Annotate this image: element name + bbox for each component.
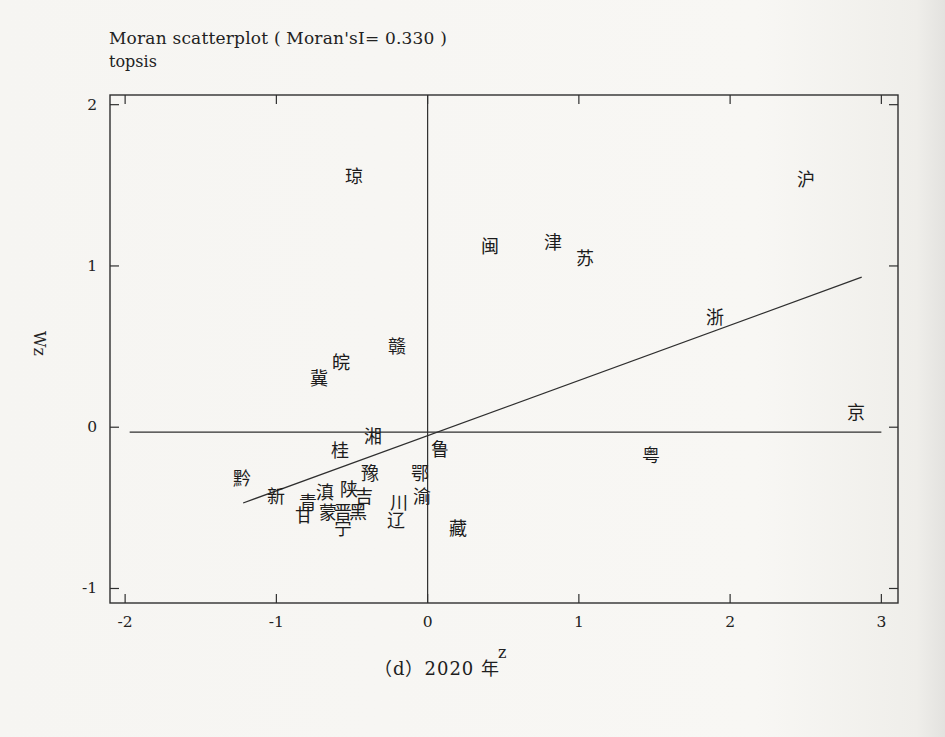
y-tick-label: 2 (87, 96, 97, 114)
province-point-anhui: 皖 (332, 354, 350, 372)
province-point-xinjiang: 新 (267, 488, 285, 506)
y-tick-label: -1 (82, 579, 97, 597)
y-tick-label: 0 (87, 418, 97, 436)
province-point-liaoning: 辽 (387, 512, 405, 530)
province-point-tianjin: 津 (544, 234, 562, 252)
x-tick-label: -2 (118, 613, 133, 631)
province-point-ningxia: 宁 (334, 520, 352, 538)
y-axis-label: Wz (30, 327, 49, 361)
figure-caption: （d）2020 年 (374, 654, 500, 680)
province-point-fujian: 闽 (481, 238, 499, 256)
x-tick-label: 2 (725, 613, 735, 631)
province-point-gansu: 甘 (295, 507, 313, 525)
y-tick-label: 1 (87, 257, 97, 275)
province-point-hubei: 鄂 (411, 465, 429, 483)
x-tick-label: -1 (269, 613, 284, 631)
province-point-hunan: 湘 (364, 428, 382, 446)
province-point-tibet: 藏 (449, 520, 467, 538)
province-point-hainan: 琼 (345, 168, 363, 186)
province-point-shandong: 鲁 (431, 441, 449, 459)
province-point-jiangsu: 苏 (576, 250, 594, 268)
x-tick-label: 3 (876, 613, 886, 631)
province-point-guangxi: 桂 (331, 442, 349, 460)
axes-box (110, 95, 898, 603)
x-tick-label: 0 (423, 613, 433, 631)
province-point-beijing: 京 (847, 404, 865, 422)
figure-title: Moran scatterplot ( Moran'sI= 0.330 ) (109, 28, 447, 48)
province-point-guizhou: 黔 (233, 470, 251, 488)
x-tick-label: 1 (574, 613, 584, 631)
province-point-zhejiang: 浙 (706, 309, 724, 327)
regression-line (243, 277, 862, 503)
province-point-chongqing: 渝 (413, 488, 431, 506)
province-point-hebei: 冀 (310, 370, 328, 388)
plot-canvas (0, 0, 945, 737)
province-point-henan: 豫 (361, 465, 379, 483)
province-point-guangdong: 粤 (642, 447, 660, 465)
figure-subtitle: topsis (109, 52, 157, 71)
province-point-jiangxi: 赣 (388, 338, 406, 356)
province-point-shanghai: 沪 (797, 171, 815, 189)
moran-scatterplot-figure: Moran scatterplot ( Moran'sI= 0.330 ) to… (0, 0, 945, 737)
province-point-yunnan: 滇 (316, 484, 334, 502)
